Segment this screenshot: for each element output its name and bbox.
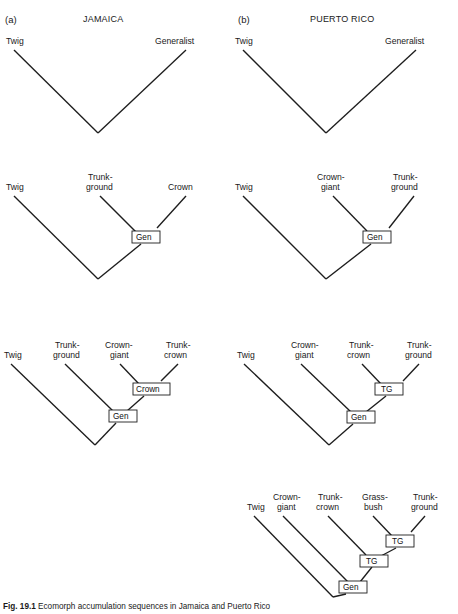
tip-label-generalist: Generalist (385, 36, 425, 46)
branch-twig (14, 50, 98, 133)
tip-label-ground-line2: ground (53, 350, 80, 360)
branch-gen-stem (326, 244, 371, 279)
cladogram-jamaica-stage-3: Twig Trunk- ground Crown- giant Trunk- c… (0, 326, 228, 450)
branch-trunk-crown (362, 364, 381, 384)
tip-label-trunk-line1: Trunk- (55, 340, 80, 350)
branch-gen-stem (98, 244, 141, 279)
tip-label-ground-line2: ground (411, 502, 438, 512)
tip-label-crown2-line2: crown (316, 502, 339, 512)
tip-label-twig: Twig (235, 36, 253, 46)
tip-label-crown-line1: Crown- (291, 340, 319, 350)
panel-letter-b: (b) (238, 14, 250, 25)
tip-label-crown-line1: Crown- (273, 492, 301, 502)
figure-caption: Fig. 19.1 Ecomorph accumulation sequence… (3, 601, 455, 612)
panel-title-puerto-rico: PUERTO RICO (310, 14, 374, 24)
tip-label-trunk-line1: Trunk- (349, 340, 374, 350)
tip-label-trunk2-line1: Trunk- (407, 340, 432, 350)
figure-caption-text: Ecomorph accumulation sequences in Jamai… (38, 602, 270, 611)
branch-twig (243, 196, 326, 279)
tip-label-twig: Twig (235, 182, 253, 192)
branch-trunk-ground (403, 364, 419, 381)
tip-label-giant-line2: giant (295, 350, 314, 360)
branch-trunk-ground (65, 364, 113, 411)
node-label-tg: TG (381, 385, 392, 394)
tip-label-trunk-line1: Trunk- (318, 492, 343, 502)
branch-trunk-ground (411, 516, 425, 532)
tip-label-crown2-line2: crown (347, 350, 370, 360)
tip-label-twig: Twig (6, 36, 24, 46)
tip-label-ground-line2: ground (391, 182, 418, 192)
branch-gen-stem (333, 594, 346, 597)
tip-label-trunk2-line1: Trunk- (166, 340, 191, 350)
node-label-tg-lower: TG (366, 557, 377, 566)
branch-gen-stem (95, 423, 116, 445)
cladogram-puertorico-stage-3: Twig Crown- giant Trunk- crown Trunk- gr… (229, 326, 458, 450)
cladogram-puertorico-stage-2: Twig Crown- giant Trunk- ground Gen (229, 168, 458, 280)
branch-grass-bush (373, 516, 392, 536)
branch-crown-giant (120, 364, 139, 384)
cladogram-puertorico-stage-4: Twig Crown- giant Trunk- crown Grass- bu… (229, 478, 458, 603)
branch-crown-giant (333, 196, 367, 231)
branch-crown-giant (301, 364, 351, 412)
tip-label-grass-line1: Grass- (362, 492, 388, 502)
node-label-gen: Gen (367, 233, 383, 242)
node-label-tg-upper: TG (392, 537, 403, 546)
tip-label-giant-line2: giant (277, 502, 296, 512)
branch-twig (11, 364, 95, 445)
panel-letter-a: (a) (5, 14, 17, 25)
figure-caption-label: Fig. 19.1 (3, 602, 36, 611)
node-label-gen: Gen (351, 413, 367, 422)
node-label-crown: Crown (136, 385, 160, 394)
branch-generalist (98, 50, 186, 133)
cladogram-puertorico-stage-1: Twig Generalist (229, 32, 458, 144)
cladogram-jamaica-stage-2: Twig Trunk- ground Crown Gen (0, 168, 228, 280)
node-label-gen: Gen (136, 233, 152, 242)
node-label-gen: Gen (113, 412, 129, 421)
branch-twig (254, 516, 333, 597)
tip-label-ground-line2: ground (405, 350, 432, 360)
tip-label-ground-line2: ground (86, 182, 113, 192)
tip-label-crown2-line2: crown (164, 350, 187, 360)
branch-twig (243, 50, 326, 133)
branch-trunk-ground (389, 196, 414, 228)
tip-label-bush-line2: bush (364, 502, 383, 512)
branch-crown (157, 196, 186, 228)
branch-trunk-crown (161, 364, 178, 381)
branch-trunk-crown (328, 516, 366, 555)
tip-label-twig: Twig (237, 350, 255, 360)
tip-label-giant-line2: giant (321, 182, 340, 192)
cladogram-jamaica-stage-1: Twig Generalist (0, 32, 228, 144)
panel-title-jamaica: JAMAICA (83, 14, 123, 24)
tip-label-trunk-line1: Trunk- (393, 172, 418, 182)
branch-crown-stem (127, 396, 144, 411)
tip-label-giant-line2: giant (110, 350, 129, 360)
figure-root: (a) JAMAICA (b) PUERTO RICO Twig General… (0, 0, 458, 614)
tip-label-twig: Twig (247, 502, 265, 512)
tip-label-crown-line1: Crown- (105, 340, 133, 350)
tip-label-generalist: Generalist (155, 36, 195, 46)
branch-twig (244, 364, 329, 445)
tip-label-crown-line1: Crown- (317, 172, 345, 182)
branch-gen-stem (329, 424, 353, 445)
branch-trunk-ground (100, 196, 136, 232)
tip-label-crown: Crown (168, 182, 193, 192)
tip-label-trunk3-line1: Trunk- (413, 492, 438, 502)
branch-twig (14, 196, 98, 279)
branch-tg-lower-stem (360, 567, 372, 582)
tip-label-twig: Twig (6, 182, 24, 192)
tip-label-twig: Twig (4, 350, 22, 360)
node-label-gen: Gen (343, 583, 359, 592)
tip-label-trunk-line1: Trunk- (88, 172, 113, 182)
branch-generalist (326, 50, 416, 133)
branch-tg-stem (366, 396, 386, 412)
